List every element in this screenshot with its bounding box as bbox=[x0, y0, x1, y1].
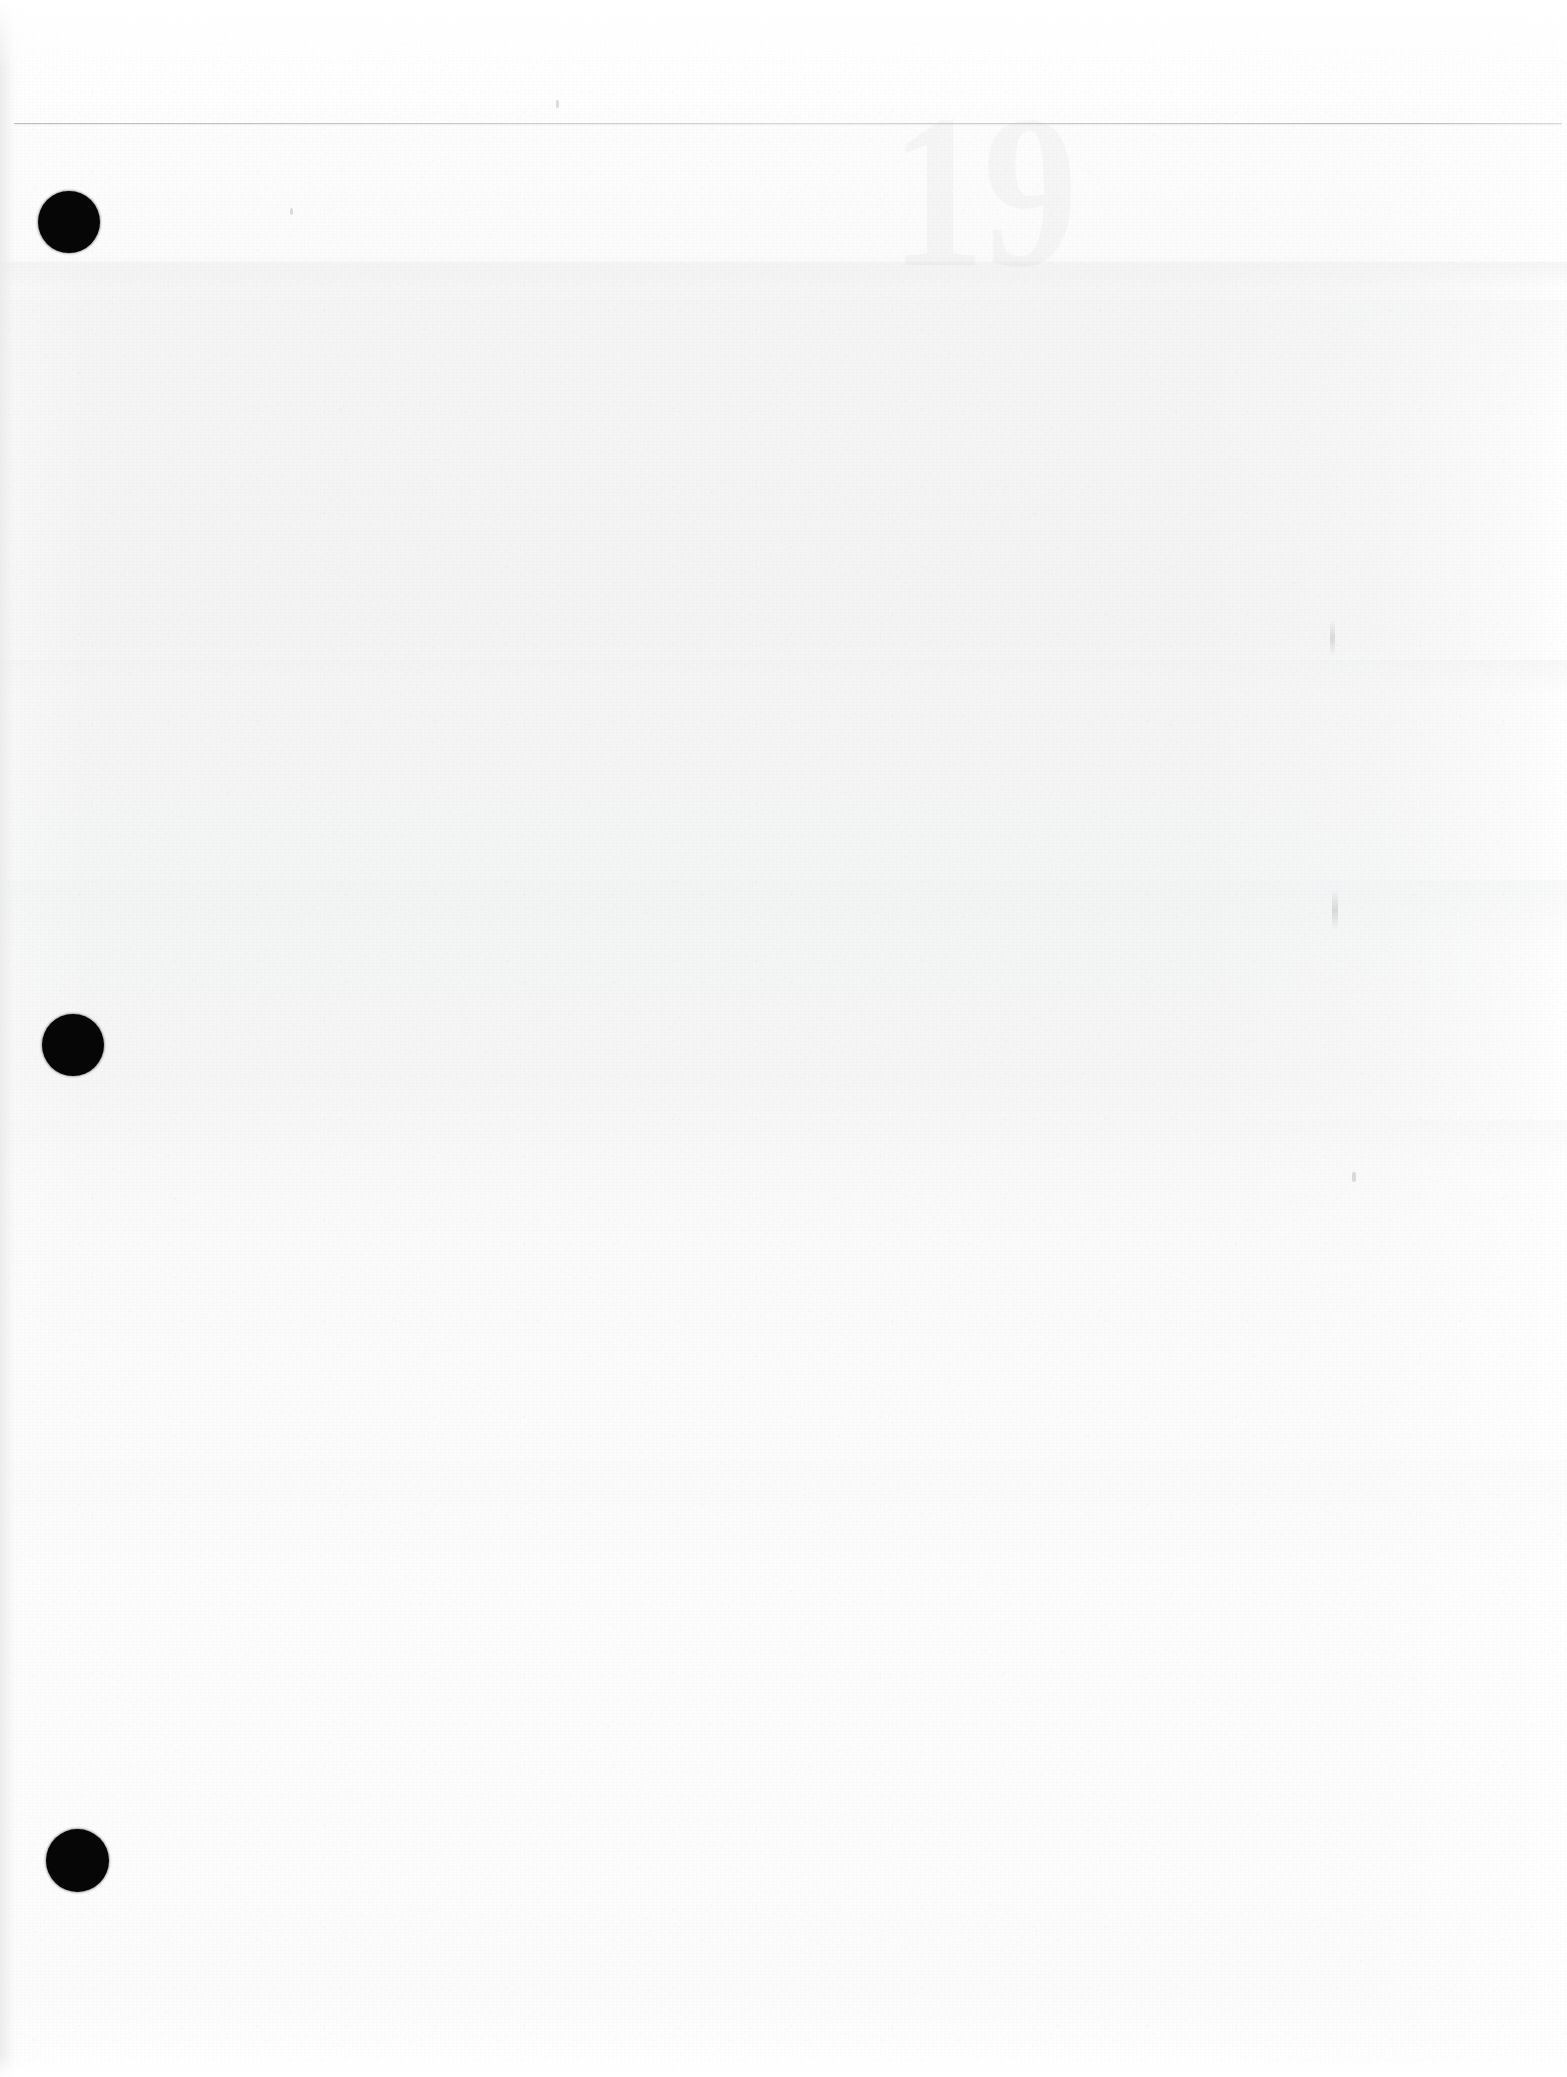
fleck-right-mid bbox=[1352, 1172, 1356, 1182]
left-edge-shading bbox=[0, 0, 14, 2077]
horizontal-rule-shadow bbox=[14, 124, 1562, 126]
bottom-edge-highlight bbox=[0, 2055, 1567, 2077]
fleck-left-upper bbox=[290, 208, 293, 215]
punch-hole-top bbox=[38, 191, 100, 253]
smudge-right-upper bbox=[1330, 620, 1335, 656]
paper-speckle-texture bbox=[0, 0, 1567, 2077]
horizontal-rule bbox=[14, 123, 1562, 124]
punch-hole-middle bbox=[42, 1014, 104, 1076]
scanned-page: 19 bbox=[0, 0, 1567, 2077]
fleck-center bbox=[556, 100, 559, 108]
smudge-right-lower bbox=[1332, 890, 1338, 930]
top-edge-highlight bbox=[0, 0, 1567, 70]
punch-hole-bottom bbox=[46, 1829, 109, 1892]
